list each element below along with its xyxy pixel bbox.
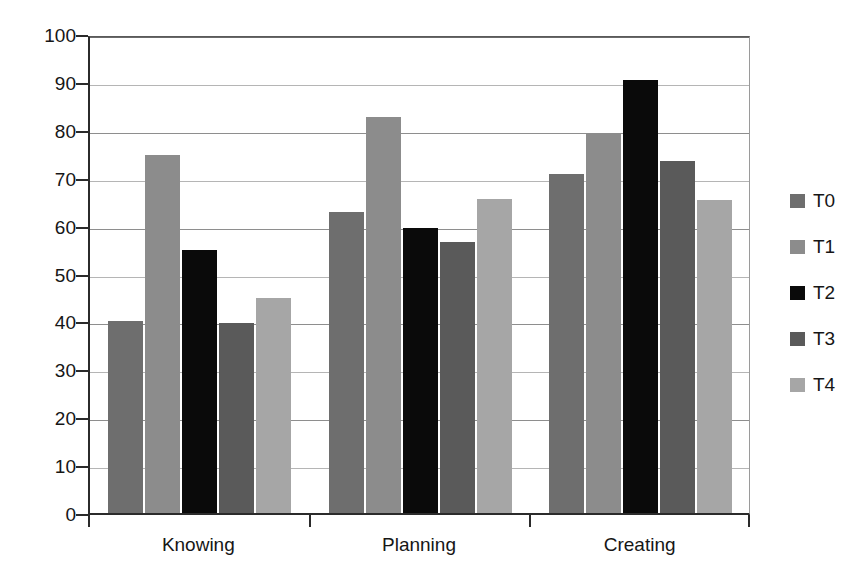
y-axis-tick	[76, 227, 88, 229]
bar-planning-t1	[366, 117, 401, 513]
legend-swatch-icon	[790, 194, 805, 208]
bar-creating-t1	[586, 133, 621, 513]
bar-knowing-t4	[256, 298, 291, 513]
y-axis-tick	[76, 131, 88, 133]
bar-planning-t4	[477, 199, 512, 513]
x-axis-category-label: Creating	[529, 534, 750, 556]
legend-label: T3	[813, 326, 835, 352]
legend-swatch-icon	[790, 378, 805, 392]
x-axis-ticks	[88, 515, 750, 529]
legend-item-t0[interactable]: T0	[790, 188, 864, 234]
legend-label: T0	[813, 188, 835, 214]
x-axis-tick	[88, 515, 90, 527]
legend-item-t4[interactable]: T4	[790, 372, 864, 418]
plot-area	[88, 36, 750, 515]
y-axis-tick	[76, 322, 88, 324]
legend-swatch-icon	[790, 332, 805, 346]
bar-chart: 0102030405060708090100 KnowingPlanningCr…	[0, 0, 864, 585]
y-axis-tick	[76, 514, 88, 516]
y-axis-tick	[76, 418, 88, 420]
x-axis-tick	[309, 515, 311, 527]
bar-knowing-t1	[145, 155, 180, 513]
y-axis-tick	[76, 179, 88, 181]
bar-planning-t2	[403, 228, 438, 513]
legend-item-t3[interactable]: T3	[790, 326, 864, 372]
legend-label: T2	[813, 280, 835, 306]
legend-swatch-icon	[790, 286, 805, 300]
bar-creating-t2	[623, 80, 658, 513]
bar-creating-t0	[549, 174, 584, 513]
x-axis-tick	[529, 515, 531, 527]
x-axis-tick	[748, 515, 750, 527]
bar-planning-t3	[440, 242, 475, 513]
bar-knowing-t3	[219, 323, 254, 513]
y-axis-tick	[76, 275, 88, 277]
bars-layer	[90, 37, 749, 513]
legend-swatch-icon	[790, 240, 805, 254]
legend-label: T1	[813, 234, 835, 260]
y-axis-tick	[76, 370, 88, 372]
legend: T0T1T2T3T4	[790, 188, 864, 418]
legend-item-t1[interactable]: T1	[790, 234, 864, 280]
bar-planning-t0	[329, 212, 364, 513]
bar-knowing-t0	[108, 321, 143, 513]
y-axis-tick	[76, 83, 88, 85]
y-axis-tick	[76, 466, 88, 468]
x-axis-category-label: Knowing	[88, 534, 309, 556]
x-axis-category-label: Planning	[309, 534, 530, 556]
bar-knowing-t2	[182, 250, 217, 513]
y-axis-tick	[76, 35, 88, 37]
legend-label: T4	[813, 372, 835, 398]
legend-item-t2[interactable]: T2	[790, 280, 864, 326]
bar-creating-t3	[660, 161, 695, 513]
x-axis-tick-labels: KnowingPlanningCreating	[88, 534, 750, 564]
y-axis-ticks	[0, 0, 88, 585]
bar-creating-t4	[697, 200, 732, 513]
